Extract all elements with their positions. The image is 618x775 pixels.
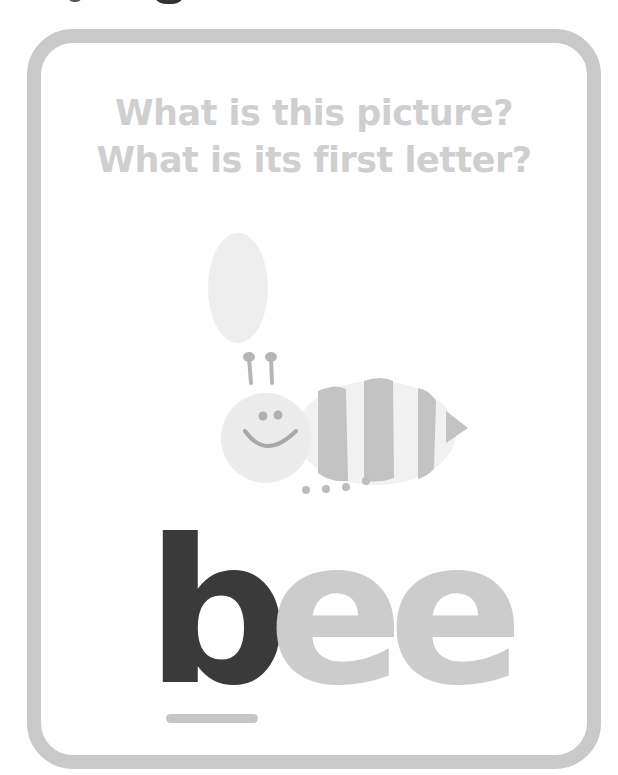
letter: e	[268, 513, 404, 713]
bee-icon	[196, 233, 486, 513]
cropped-glyph	[152, 0, 186, 4]
cropped-heading-fragment	[0, 0, 618, 14]
flashcard: What is this picture? What is its first …	[27, 29, 601, 769]
cropped-glyph	[68, 0, 82, 2]
question-line-1: What is this picture?	[41, 93, 587, 133]
letter: e	[388, 513, 524, 713]
question-line-2: What is its first letter?	[41, 140, 587, 180]
first-letter-underline	[166, 714, 258, 723]
